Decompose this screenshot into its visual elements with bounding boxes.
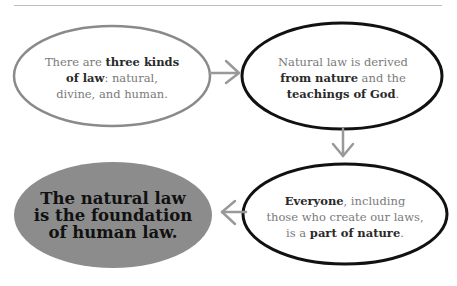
text-bold: teachings of God — [287, 87, 396, 101]
text-part: , including — [344, 194, 406, 208]
arrow-right-icon — [210, 61, 239, 83]
text-bold: Everyone — [285, 194, 344, 208]
text-part: . — [400, 226, 404, 240]
text-part: . — [396, 87, 400, 101]
text-bold: part of nature — [310, 226, 400, 240]
text-bold: three kinds — [106, 55, 180, 69]
text-part: and the — [358, 71, 406, 85]
text-part: Natural law is derived — [278, 55, 408, 69]
diagram-art — [0, 0, 457, 286]
node-three-kinds: There are three kinds of law: natural, d… — [30, 54, 194, 102]
text-part: is a — [286, 226, 310, 240]
node-everyone-part-of-nature: Everyone, including those who create our… — [255, 193, 435, 241]
node-derived-from-nature: Natural law is derived from nature and t… — [255, 54, 431, 102]
arrow-down-icon — [333, 129, 353, 156]
text-part: There are — [45, 55, 106, 69]
text-part: : natural, — [104, 71, 158, 85]
text-part: those who create our laws, — [266, 210, 423, 224]
text-part: divine, and human. — [56, 87, 168, 101]
text-part: of human law. — [49, 223, 178, 242]
node-conclusion: The natural law is the foundation of hum… — [20, 190, 206, 241]
text-bold: from nature — [280, 71, 358, 85]
text-bold: of law — [66, 71, 104, 85]
